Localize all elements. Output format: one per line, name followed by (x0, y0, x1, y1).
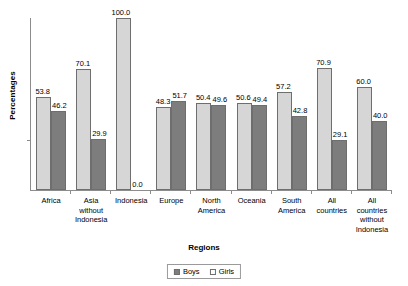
bar-pair: 50.449.6 (191, 18, 231, 190)
x-axis-category-label: Africa (31, 196, 71, 242)
x-axis-category-label: Oceania (232, 196, 272, 242)
bar-pair: 57.242.8 (272, 18, 312, 190)
bar-value-label: 60.0 (356, 77, 371, 86)
bar-rect-girls[interactable] (211, 105, 226, 190)
bar-value-label: 57.2 (276, 82, 291, 91)
bar-boys[interactable]: 70.9 (317, 18, 332, 190)
category-label-line: countries (313, 206, 351, 216)
bar-boys[interactable]: 50.6 (237, 18, 252, 190)
bar-rect-girls[interactable] (252, 105, 267, 190)
bar-pair: 48.351.7 (151, 18, 191, 190)
bar-rect-boys[interactable] (317, 68, 332, 190)
bar-group: 50.449.6 (191, 18, 231, 190)
bar-value-label: 53.8 (35, 87, 50, 96)
bar-girls[interactable]: 29.1 (332, 18, 347, 190)
x-axis-category-labels: AfricaAsiawithoutIndonesiaIndonesiaEurop… (31, 196, 392, 242)
bar-boys[interactable]: 100.0 (116, 18, 131, 190)
bar-girls[interactable]: 29.9 (91, 18, 106, 190)
bar-girls[interactable]: 0.0 (131, 18, 146, 190)
bar-rect-boys[interactable] (357, 87, 372, 190)
x-axis-tick (150, 190, 151, 194)
bar-value-label: 50.6 (236, 93, 251, 102)
bar-rect-girls[interactable] (372, 121, 387, 190)
bar-rect-boys[interactable] (237, 103, 252, 190)
category-label-line: All (313, 196, 351, 206)
category-label-line: Europe (152, 196, 190, 206)
bar-value-label: 49.4 (253, 95, 268, 104)
bar-value-label: 70.1 (76, 59, 91, 68)
x-axis-category-label: SouthAmerica (272, 196, 312, 242)
bar-rect-boys[interactable] (116, 18, 131, 190)
x-axis-category-label: Allcountries (312, 196, 352, 242)
bar-value-label: 70.9 (316, 58, 331, 67)
bar-pair: 60.040.0 (352, 18, 392, 190)
bar-rect-boys[interactable] (277, 92, 292, 190)
bar-girls[interactable]: 46.2 (51, 18, 66, 190)
bar-girls[interactable]: 40.0 (372, 18, 387, 190)
bar-group: 48.351.7 (151, 18, 191, 190)
x-axis-title: Regions (0, 243, 408, 252)
y-axis-title-text: Percentages (8, 71, 17, 120)
category-label-line: America (192, 206, 230, 216)
bar-group: 70.929.1 (312, 18, 352, 190)
bar-girls[interactable]: 42.8 (292, 18, 307, 190)
chart-legend: BoysGirls (167, 264, 241, 279)
bar-groups: 53.846.270.129.9100.00.048.351.750.449.6… (31, 18, 392, 190)
category-label-line: All (353, 196, 391, 206)
x-axis-tick (391, 190, 392, 194)
bar-group: 60.040.0 (352, 18, 392, 190)
x-axis-tick (271, 190, 272, 194)
bar-rect-girls[interactable] (171, 101, 186, 190)
bar-value-label: 49.6 (212, 95, 227, 104)
bar-boys[interactable]: 48.3 (156, 18, 171, 190)
legend-item-boys[interactable]: Boys (174, 267, 200, 276)
category-label-line: without (72, 206, 110, 216)
bar-value-label: 29.1 (333, 130, 348, 139)
bar-boys[interactable]: 50.4 (196, 18, 211, 190)
bar-girls[interactable]: 49.6 (211, 18, 226, 190)
legend-item-girls[interactable]: Girls (210, 267, 234, 276)
bar-boys[interactable]: 70.1 (76, 18, 91, 190)
x-axis-category-label: Indonesia (111, 196, 151, 242)
x-axis-tick (351, 190, 352, 194)
bar-rect-girls[interactable] (51, 111, 66, 190)
category-label-line: Oceania (233, 196, 271, 206)
bar-boys[interactable]: 53.8 (36, 18, 51, 190)
legend-label: Boys (183, 267, 200, 276)
x-axis-category-label: Europe (151, 196, 191, 242)
legend-swatch-icon (210, 269, 216, 275)
bar-pair: 53.846.2 (31, 18, 71, 190)
bar-boys[interactable]: 57.2 (277, 18, 292, 190)
bar-value-label: 42.8 (293, 106, 308, 115)
x-axis-category-label: AllcountrieswithoutIndonesia (352, 196, 392, 242)
x-axis-tick (231, 190, 232, 194)
bar-pair: 100.00.0 (111, 18, 151, 190)
bar-rect-boys[interactable] (76, 69, 91, 190)
x-axis-tick (70, 190, 71, 194)
bar-pair: 70.129.9 (71, 18, 111, 190)
x-axis-tick (311, 190, 312, 194)
bar-girls[interactable]: 51.7 (171, 18, 186, 190)
bar-rect-boys[interactable] (156, 107, 171, 190)
bar-rect-boys[interactable] (196, 103, 211, 190)
category-label-line: America (273, 206, 311, 216)
bar-rect-girls[interactable] (292, 116, 307, 190)
bar-value-label: 40.0 (373, 111, 388, 120)
bar-boys[interactable]: 60.0 (357, 18, 372, 190)
bar-group: 50.649.4 (232, 18, 272, 190)
category-label-line: Asia (72, 196, 110, 206)
bar-rect-girls[interactable] (332, 140, 347, 190)
bar-girls[interactable]: 49.4 (252, 18, 267, 190)
bar-rect-girls[interactable] (91, 139, 106, 190)
bar-value-label: 51.7 (172, 91, 187, 100)
category-label-line: South (273, 196, 311, 206)
bar-value-label: 46.2 (52, 101, 67, 110)
category-label-line: countries (353, 206, 391, 216)
bar-rect-boys[interactable] (36, 97, 51, 190)
x-axis-category-label: NorthAmerica (191, 196, 231, 242)
category-label-line: Indonesia (72, 215, 110, 225)
legend-label: Girls (219, 267, 234, 276)
category-label-line: without (353, 215, 391, 225)
grouped-bar-chart: Percentages 53.846.270.129.9100.00.048.3… (0, 0, 408, 286)
category-label-line: North (192, 196, 230, 206)
